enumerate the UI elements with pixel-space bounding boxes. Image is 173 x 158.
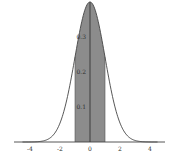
x-tick-labels: -4-2024 [27,145,152,152]
normal-distribution-chart: -4-2024 0.10.20.3 [0,0,173,158]
x-tick-label: 4 [148,145,152,152]
x-tick-label: -4 [27,145,33,152]
x-tick-label: 2 [118,145,122,152]
y-tick-label: 0.3 [76,33,86,40]
x-tick-label: -2 [57,145,63,152]
y-tick-label: 0.1 [76,103,86,110]
y-tick-label: 0.2 [76,68,86,75]
x-tick-label: 0 [88,145,92,152]
